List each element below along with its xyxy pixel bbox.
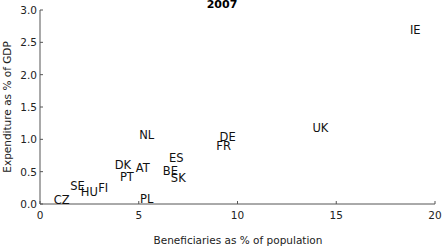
y-tick-label: 3.0 — [20, 4, 37, 16]
x-tick-label: 20 — [428, 209, 441, 221]
data-points: CZSEHUFIPLPTDKATNLESBESKDEFRUKIE — [54, 23, 421, 207]
point-label-es: ES — [169, 151, 184, 165]
point-label-hu: HU — [81, 185, 98, 199]
y-tick-label: 1.0 — [20, 133, 37, 145]
y-tick-label: 2.0 — [20, 69, 37, 81]
y-tick-label: 0.5 — [20, 166, 37, 178]
x-tick-label: 0 — [37, 209, 44, 221]
x-axis-label: Beneficiaries as % of population — [154, 234, 323, 246]
point-label-pl: PL — [140, 192, 154, 206]
x-tick-label: 15 — [330, 209, 343, 221]
y-tick-label: 0.0 — [20, 198, 37, 210]
point-label-sk: SK — [171, 171, 186, 185]
point-label-fr: FR — [216, 139, 231, 153]
x-tick-label: 5 — [135, 209, 142, 221]
y-tick-label: 2.5 — [20, 36, 37, 48]
point-label-uk: UK — [312, 121, 328, 135]
y-axis-label: Expenditure as % of GDP — [1, 41, 13, 172]
point-label-at: AT — [136, 161, 151, 175]
point-label-nl: NL — [139, 128, 155, 142]
point-label-dk: DK — [115, 158, 132, 172]
point-label-fi: FI — [98, 181, 108, 195]
point-label-cz: CZ — [54, 193, 70, 207]
chart-title: 2007 — [207, 0, 238, 11]
y-tick-label: 1.5 — [20, 101, 37, 113]
point-label-ie: IE — [410, 23, 421, 37]
scatter-chart: 2007 051015200.00.51.01.52.02.53.0 CZSEH… — [0, 0, 444, 250]
x-tick-label: 10 — [231, 209, 244, 221]
